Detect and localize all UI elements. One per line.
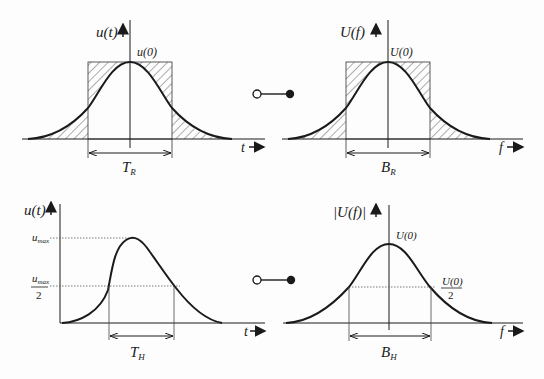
- fourier-pulse-width-diagram: u(t) u(0) t TR U(f) U(0) f BR: [0, 0, 544, 379]
- open-circle-icon: [253, 276, 261, 284]
- open-circle-icon: [253, 90, 261, 98]
- width-label: BR: [381, 159, 396, 177]
- peak-label: U(0): [396, 229, 417, 242]
- panel-bottom-left: u(t) umax umax 2 t TH: [24, 202, 265, 362]
- width-label: BH: [381, 344, 397, 362]
- fourier-correspondence-symbol: [253, 276, 295, 284]
- panel-top-left: u(t) u(0) t TR: [22, 20, 265, 177]
- y-axis-label: |U(f)|: [333, 204, 366, 221]
- hatched-area: [172, 108, 230, 139]
- width-label: TH: [130, 344, 145, 362]
- hatched-area: [288, 108, 346, 139]
- half-label-denominator: 2: [36, 289, 42, 301]
- panel-top-right: U(f) U(0) f BR: [282, 20, 523, 177]
- pulse-curve: [62, 238, 222, 323]
- half-label-numerator: umax: [32, 272, 50, 286]
- peak-label: U(0): [390, 45, 413, 59]
- x-axis-label: f: [500, 324, 506, 339]
- filled-circle-icon: [287, 276, 295, 284]
- panel-bottom-right: |U(f)| U(0) U(0) 2 f BH: [283, 204, 523, 362]
- spectrum-curve: [288, 62, 490, 139]
- filled-circle-icon: [286, 90, 294, 98]
- hatched-area: [30, 108, 88, 139]
- y-axis-label: U(f): [340, 24, 365, 41]
- width-label: TR: [122, 159, 136, 177]
- fourier-correspondence-symbol: [253, 90, 294, 98]
- y-axis-label: u(t): [24, 202, 46, 219]
- half-label-denominator: 2: [448, 289, 454, 301]
- x-axis-label: f: [499, 140, 505, 155]
- y-axis-label: u(t): [96, 24, 118, 41]
- hatched-area: [430, 108, 488, 139]
- x-axis-label: t: [244, 324, 249, 339]
- x-axis-label: t: [241, 140, 246, 155]
- max-label: umax: [32, 231, 50, 245]
- diagram-svg: u(t) u(0) t TR U(f) U(0) f BR: [0, 0, 544, 379]
- half-label-numerator: U(0): [442, 275, 463, 288]
- peak-label: u(0): [137, 45, 157, 59]
